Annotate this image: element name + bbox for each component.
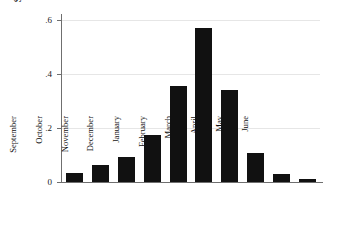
x-tick-label: March [164, 116, 173, 186]
y-tick-label: .4 [28, 70, 52, 79]
y-axis-title-line-2: food shortages [24, 0, 35, 2]
x-tick-label: October [35, 116, 44, 186]
x-tick-label: September [9, 116, 18, 186]
y-tick-label: .6 [28, 16, 52, 25]
x-tick-label: April [190, 116, 199, 186]
x-tick-label: May [215, 116, 224, 186]
x-tick-label: January [112, 116, 121, 186]
bar-chart: Share of households reporting food short… [0, 0, 341, 243]
x-tick-label: December [86, 116, 95, 186]
x-tick-label: June [241, 116, 250, 186]
x-tick-label: November [61, 116, 70, 186]
bar [273, 174, 290, 182]
bar [299, 179, 316, 182]
y-axis-title-line-1: Share of households reporting [13, 0, 24, 2]
x-tick-label: February [138, 116, 147, 186]
